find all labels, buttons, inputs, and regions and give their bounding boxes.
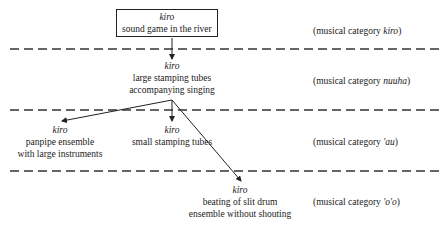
category-label-au: (musical category 'au) (313, 137, 398, 147)
level3b-term: kiro (122, 124, 222, 136)
level4-term: kiro (180, 184, 300, 196)
level2-node: kiro large stamping tubes accompanying s… (112, 60, 232, 96)
category-label-oo: (musical category 'o'o) (313, 197, 400, 207)
level3a-node: kiro panpipe ensemble with large instrum… (5, 124, 115, 160)
level2-term: kiro (112, 60, 232, 72)
level3a-line1: panpipe ensemble (5, 136, 115, 148)
level4-line2: ensemble without shouting (180, 208, 300, 220)
level3a-line2: with large instruments (5, 148, 115, 160)
level4-node: kiro beating of slit drum ensemble witho… (180, 184, 300, 220)
level3a-term: kiro (5, 124, 115, 136)
level3b-line1: small stamping tubes (122, 136, 222, 148)
level2-line1: large stamping tubes (112, 72, 232, 84)
root-node: kiro sound game in the river (116, 9, 218, 37)
root-desc: sound game in the river (122, 24, 212, 34)
category-label-kiro: (musical category kiro) (313, 26, 401, 36)
level4-line1: beating of slit drum (180, 196, 300, 208)
level2-line2: accompanying singing (112, 84, 232, 96)
level3b-node: kiro small stamping tubes (122, 124, 222, 148)
category-label-nuuha: (musical category nuuha) (313, 76, 410, 86)
root-term: kiro (122, 11, 212, 23)
